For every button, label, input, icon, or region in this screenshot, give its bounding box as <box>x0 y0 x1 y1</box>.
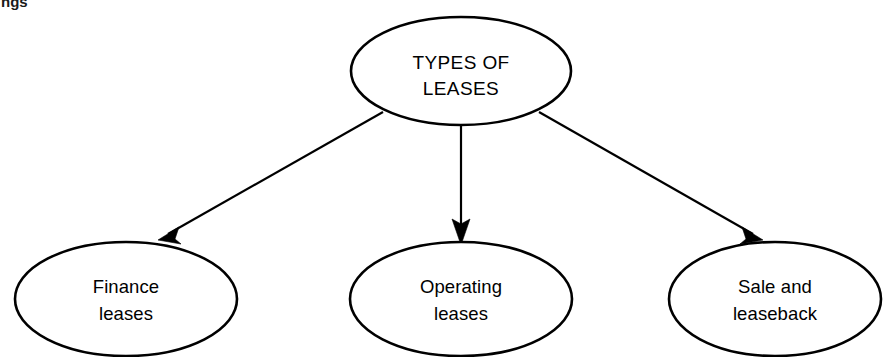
arrow-root-to-saleleaseback <box>539 112 763 244</box>
leases-hierarchy-diagram: TYPES OF LEASES Finance leases Operating… <box>0 0 885 357</box>
node-types-of-leases-label-line-1: TYPES OF <box>412 52 509 73</box>
node-operating-leases-shape[interactable] <box>350 242 572 356</box>
node-finance-leases-shape[interactable] <box>15 242 237 356</box>
node-operating-leases-label-line-1: Operating <box>420 276 502 297</box>
node-sale-and-leaseback-shape[interactable] <box>669 242 881 356</box>
diagram-canvas: ngs TYPES OF LEASES Finance leases <box>0 0 885 357</box>
arrow-root-to-saleleaseback-line <box>539 112 753 234</box>
node-sale-and-leaseback[interactable]: Sale and leaseback <box>669 242 881 356</box>
node-finance-leases[interactable]: Finance leases <box>15 242 237 356</box>
arrow-root-to-finance-line <box>168 112 383 234</box>
arrow-root-to-finance-head <box>158 227 181 244</box>
node-operating-leases[interactable]: Operating leases <box>350 242 572 356</box>
node-operating-leases-label-line-2: leases <box>434 303 488 324</box>
node-sale-and-leaseback-label-line-1: Sale and <box>738 276 812 297</box>
node-finance-leases-label-line-1: Finance <box>93 276 160 297</box>
arrow-root-to-operating <box>452 126 470 245</box>
arrow-root-to-finance <box>158 112 383 244</box>
node-types-of-leases[interactable]: TYPES OF LEASES <box>351 17 571 125</box>
node-sale-and-leaseback-label-line-2: leaseback <box>733 303 818 324</box>
node-finance-leases-label-line-2: leases <box>99 303 153 324</box>
node-types-of-leases-label-line-2: LEASES <box>423 78 499 99</box>
